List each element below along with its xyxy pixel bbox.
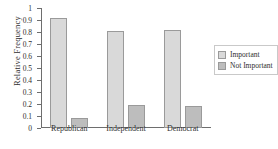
legend-item-important[interactable]: Important — [218, 49, 273, 60]
y-axis-tick-label: 0.7 — [23, 40, 32, 49]
y-axis-tick-label: 0 — [28, 124, 32, 133]
y-axis-tick-label: 0.3 — [23, 88, 32, 97]
legend-item-label: Not Important — [230, 62, 273, 70]
y-axis-tick: 0.4 — [37, 80, 41, 81]
bar — [164, 30, 181, 128]
y-axis-tick: 0.5 — [37, 68, 41, 69]
y-axis-tick: 0.2 — [37, 104, 41, 105]
bar — [107, 31, 124, 128]
x-axis-tick-label: Democrat — [167, 124, 199, 133]
y-axis-tick: 0.7 — [37, 44, 41, 45]
bar — [50, 18, 67, 128]
y-axis-tick: 0 — [37, 128, 41, 129]
y-axis-tick: 0.1 — [37, 116, 41, 117]
y-axis-tick-label: 0.5 — [23, 64, 32, 73]
y-axis-tick: 0.3 — [37, 92, 41, 93]
legend: Important Not Important — [214, 45, 278, 75]
legend-item-not-important[interactable]: Not Important — [218, 60, 273, 71]
legend-swatch-icon — [218, 62, 226, 70]
x-axis-tick-label: Independent — [106, 124, 146, 133]
y-axis-tick-label: 0.4 — [23, 76, 32, 85]
x-axis-tick-label: Republican — [51, 124, 87, 133]
y-axis-tick: 0.8 — [37, 32, 41, 33]
y-axis-tick-label: 0.9 — [23, 16, 32, 25]
y-axis-tick-label: 1 — [28, 4, 32, 13]
y-axis-tick-label: 0.6 — [23, 52, 32, 61]
y-axis-title: Relative Frequency — [12, 0, 22, 106]
y-axis-tick: 1 — [37, 8, 41, 9]
y-axis-tick: 0.6 — [37, 56, 41, 57]
legend-swatch-icon — [218, 51, 226, 59]
bar-chart: Relative Frequency 00.10.20.30.40.50.60.… — [0, 0, 278, 149]
y-axis-tick-label: 0.8 — [23, 28, 32, 37]
y-axis-tick-label: 0.2 — [23, 100, 32, 109]
plot-area: 00.10.20.30.40.50.60.70.80.91 — [41, 8, 211, 128]
y-axis-line — [41, 8, 42, 128]
y-axis-tick: 0.9 — [37, 20, 41, 21]
y-axis-tick-label: 0.1 — [23, 112, 32, 121]
legend-item-label: Important — [230, 51, 260, 59]
